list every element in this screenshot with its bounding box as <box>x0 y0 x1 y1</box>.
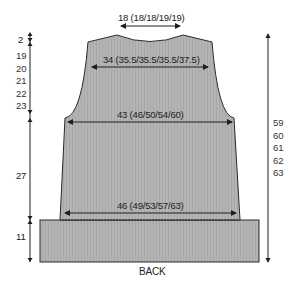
ribbing-panel <box>40 220 259 262</box>
total-size-3: 61 <box>273 142 284 155</box>
total-height-labels: 59 60 61 62 63 <box>273 117 284 180</box>
ribbing-height-label: 11 <box>16 232 25 242</box>
back-schematic <box>0 0 297 283</box>
neck-width-label: 18 (18/18/19/19) <box>118 13 185 23</box>
shoulder-width-label: 34 (35.5/35.5/35.5/37.5) <box>103 55 200 65</box>
armhole-size-1: 19 <box>16 50 27 63</box>
armhole-height-labels: 19 20 21 22 23 <box>16 50 27 113</box>
total-size-1: 59 <box>273 117 284 130</box>
total-size-4: 62 <box>273 155 284 168</box>
piece-title: BACK <box>139 267 165 277</box>
right-height-arrow <box>266 33 271 263</box>
total-size-2: 60 <box>273 130 284 143</box>
armhole-size-5: 23 <box>16 100 27 113</box>
hip-width-label: 46 (49/53/57/63) <box>117 201 184 211</box>
chest-width-label: 43 (46/50/54/60) <box>117 110 184 120</box>
armhole-size-3: 21 <box>16 75 27 88</box>
left-height-arrows <box>28 32 33 262</box>
total-size-5: 63 <box>273 167 284 180</box>
shoulder-slope-height-label: 2 <box>18 35 23 45</box>
body-height-label: 27 <box>16 171 26 181</box>
armhole-size-4: 22 <box>16 88 27 101</box>
armhole-size-2: 20 <box>16 63 27 76</box>
